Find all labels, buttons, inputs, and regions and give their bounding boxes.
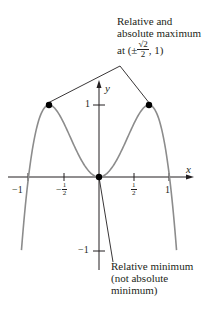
y-tick-label-1: 1 (85, 98, 90, 109)
max-point-left (46, 102, 52, 108)
max-point-right (146, 102, 152, 108)
x-tick-label-neg-half: −12 (56, 182, 67, 197)
min-annotation: Relative minimum (not absolute minimum) (111, 260, 193, 296)
x-tick-label-1: 1 (165, 184, 170, 195)
max-annotation: Relative and absolute maximum at (±√22, … (117, 15, 201, 59)
min-leader-line (99, 177, 113, 262)
y-tick-label-neg1: −1 (78, 244, 89, 255)
x-axis-arrow-icon (186, 175, 194, 180)
y-axis-arrow-icon (97, 80, 102, 88)
y-axis-label: y (105, 82, 110, 94)
min-point-origin (96, 174, 102, 180)
x-tick-label-half: 12 (131, 182, 137, 197)
x-tick-label-neg1: −1 (12, 184, 23, 195)
x-axis-label: x (186, 163, 191, 175)
